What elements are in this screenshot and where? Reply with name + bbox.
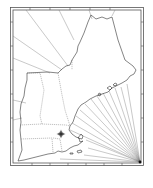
rhumb-lines-northwest	[13, 10, 115, 120]
new-england-map	[0, 0, 153, 188]
rhumb-origin-marker	[139, 161, 142, 164]
state-borders	[20, 60, 72, 152]
compass-rose-icon	[57, 130, 66, 139]
map-frame	[11, 8, 144, 166]
map-canvas	[0, 0, 153, 188]
